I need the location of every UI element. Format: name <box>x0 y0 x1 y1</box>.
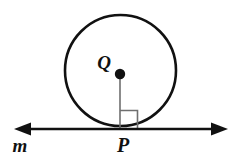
geometry-figure-canvas: Q P m <box>0 0 243 157</box>
label-center-q: Q <box>97 52 111 73</box>
geometry-diagram-svg: Q P m <box>0 0 243 157</box>
label-tangent-point-p: P <box>116 134 130 156</box>
left-arrowhead-icon <box>14 123 31 136</box>
right-arrowhead-icon <box>211 123 228 136</box>
center-point-dot <box>115 69 125 79</box>
label-line-m: m <box>13 135 28 156</box>
